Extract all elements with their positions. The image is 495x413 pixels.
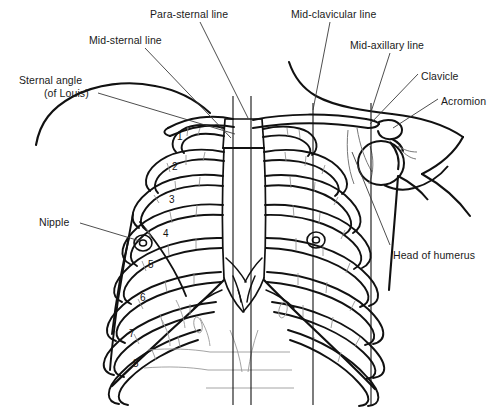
label-head-of-humerus: Head of humerus bbox=[393, 249, 475, 261]
rib-number-4: 4 bbox=[163, 228, 169, 239]
humerus-shading bbox=[369, 146, 417, 184]
ribs-left bbox=[104, 125, 224, 405]
acromion-leader bbox=[393, 99, 438, 128]
mid-sternal-leader bbox=[145, 48, 231, 138]
thorax-anatomy-figure: Para-sternal line Mid-sternal line Stern… bbox=[0, 0, 495, 413]
vertical-reference-lines bbox=[233, 96, 371, 405]
rib-number-5: 5 bbox=[148, 259, 154, 270]
label-para-sternal-line: Para-sternal line bbox=[150, 8, 228, 20]
rib-number-6: 6 bbox=[140, 292, 146, 303]
rib-number-1: 1 bbox=[177, 131, 183, 142]
label-sternal-angle-of-louis: (of Louis) bbox=[44, 87, 89, 99]
sternum bbox=[223, 119, 266, 312]
label-clavicle: Clavicle bbox=[421, 70, 459, 82]
para-sternal-leader bbox=[200, 22, 248, 118]
breast-contours bbox=[110, 214, 186, 370]
rib-number-8: 8 bbox=[133, 358, 139, 369]
label-mid-sternal-line: Mid-sternal line bbox=[89, 34, 162, 46]
label-sternal-angle: Sternal angle bbox=[19, 74, 82, 86]
label-acromion: Acromion bbox=[441, 95, 486, 107]
anatomy-drawing bbox=[0, 0, 495, 413]
rib-number-2: 2 bbox=[172, 161, 178, 172]
mid-clavicular-leader bbox=[313, 22, 330, 110]
label-mid-clavicular-line: Mid-clavicular line bbox=[291, 8, 376, 20]
mid-axillary-leader bbox=[371, 53, 390, 112]
label-mid-axillary-line: Mid-axillary line bbox=[350, 39, 424, 51]
label-nipple: Nipple bbox=[39, 216, 69, 228]
rib-number-3: 3 bbox=[169, 194, 175, 205]
rib-number-7: 7 bbox=[129, 328, 135, 339]
